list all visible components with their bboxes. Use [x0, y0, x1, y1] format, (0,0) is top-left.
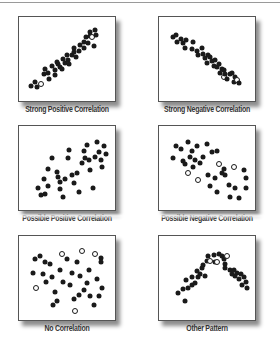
data-point [32, 257, 37, 262]
data-point [74, 171, 79, 176]
open-data-point [224, 253, 230, 259]
data-point [170, 156, 175, 161]
data-point [74, 260, 79, 265]
data-point [81, 288, 86, 293]
data-point [61, 194, 66, 199]
data-point [95, 140, 100, 145]
scatter-plot [158, 125, 256, 211]
data-point [204, 141, 209, 146]
scatter-plot [18, 235, 116, 321]
data-point [189, 148, 194, 153]
data-point [52, 73, 57, 78]
data-point [103, 151, 108, 156]
data-point [42, 191, 47, 196]
data-point [236, 81, 241, 86]
data-point [94, 32, 99, 37]
data-point [76, 292, 81, 297]
data-point [186, 140, 191, 145]
data-point [91, 303, 96, 308]
data-point [49, 156, 54, 161]
data-point [68, 282, 73, 287]
data-point [81, 148, 86, 153]
data-point [46, 70, 51, 75]
data-point [101, 144, 106, 149]
data-point [214, 190, 219, 195]
data-point [41, 272, 46, 277]
data-point [243, 175, 248, 180]
data-point [79, 161, 84, 166]
data-point [176, 291, 181, 296]
open-data-point [231, 164, 237, 170]
data-point [96, 294, 101, 299]
data-point [182, 45, 187, 50]
open-data-point [195, 177, 201, 183]
data-point [241, 168, 246, 173]
data-point [66, 156, 71, 161]
data-point [88, 168, 93, 173]
open-data-point [38, 81, 44, 87]
data-point [184, 38, 189, 43]
data-point [203, 273, 208, 278]
data-point [228, 194, 233, 199]
data-point [61, 279, 66, 284]
data-point [98, 157, 103, 162]
data-point [36, 185, 41, 190]
scatter-plot [158, 235, 256, 321]
panel-caption: Strong Negative Correlation [160, 104, 253, 114]
data-point [59, 66, 64, 71]
data-point [47, 261, 52, 266]
data-point [67, 62, 72, 67]
data-point [223, 172, 228, 177]
panel-caption: No Correlation [20, 323, 113, 333]
data-point [58, 179, 63, 184]
panel-caption: Strong Positive Correlation [20, 104, 113, 114]
data-point [95, 276, 100, 281]
data-point [85, 41, 90, 46]
data-point [37, 254, 42, 259]
data-point [192, 281, 197, 286]
data-point [245, 285, 250, 290]
data-point [51, 303, 56, 308]
data-point [41, 176, 46, 181]
data-point [76, 190, 81, 195]
data-point [191, 39, 196, 44]
data-point [47, 76, 52, 81]
data-point [208, 184, 213, 189]
data-point [76, 48, 81, 53]
open-data-point [72, 308, 78, 314]
data-point [226, 182, 231, 187]
data-point [44, 279, 49, 284]
data-point [74, 54, 79, 59]
data-point [58, 187, 63, 192]
data-point [85, 142, 90, 147]
data-point [54, 298, 59, 303]
data-point [221, 166, 226, 171]
data-point [71, 297, 76, 302]
data-point [78, 273, 83, 278]
data-point [206, 172, 211, 177]
data-point [81, 45, 86, 50]
data-point [91, 44, 96, 49]
data-point [179, 147, 184, 152]
data-point [29, 84, 34, 89]
data-point [201, 263, 206, 268]
scatter-plot [18, 16, 116, 102]
open-data-point [214, 259, 220, 265]
data-point [98, 260, 103, 265]
data-point [184, 278, 189, 283]
data-point [63, 176, 68, 181]
data-point [30, 270, 35, 275]
panel-caption: Other Pattern [160, 323, 253, 333]
data-point [243, 279, 248, 284]
data-point [67, 148, 72, 153]
data-point [49, 275, 54, 280]
open-data-point [59, 251, 65, 257]
data-point [85, 281, 90, 286]
data-point [199, 45, 204, 50]
data-point [100, 285, 105, 290]
data-point [198, 160, 203, 165]
data-point [243, 185, 248, 190]
data-point [71, 181, 76, 186]
data-point [236, 196, 241, 201]
open-data-point [185, 170, 191, 176]
